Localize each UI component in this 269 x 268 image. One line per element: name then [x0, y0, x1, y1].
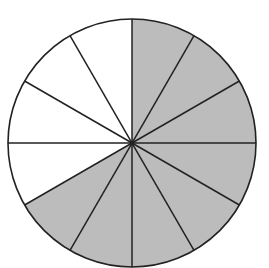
- center-point: [130, 141, 134, 145]
- fraction-circle-diagram: [0, 0, 269, 268]
